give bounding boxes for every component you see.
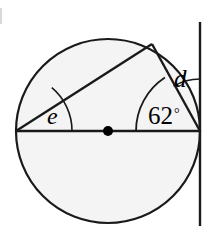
degree-symbol: ° <box>174 106 180 121</box>
angle-label-e: e <box>47 104 58 128</box>
center-dot <box>103 126 113 136</box>
geometry-figure: e d 62° <box>0 0 213 226</box>
angle-value-62: 62 <box>148 102 173 129</box>
geometry-canvas <box>0 0 213 226</box>
angle-label-62-degrees: 62° <box>148 103 180 128</box>
angle-label-d: d <box>174 66 187 91</box>
